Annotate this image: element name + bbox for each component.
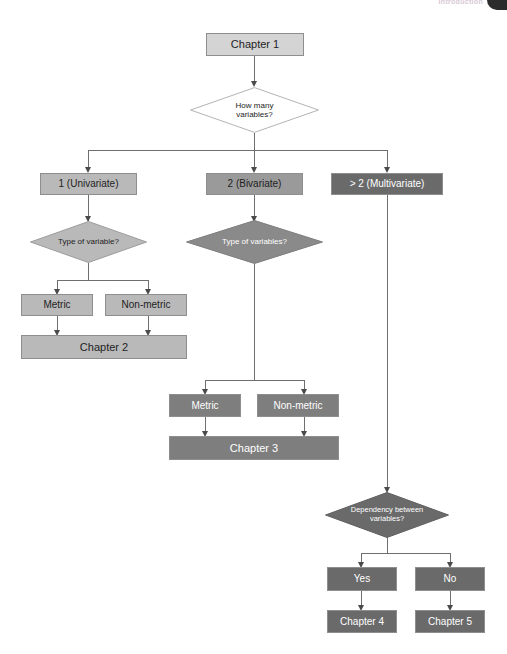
decision-type-of-variables[interactable]: Type of variables? bbox=[186, 220, 323, 264]
node-chapter-1[interactable]: Chapter 1 bbox=[206, 33, 304, 56]
edge-bivariate-split-bus bbox=[205, 380, 304, 381]
node-bivariate-metric-label: Metric bbox=[191, 400, 218, 412]
node-yes[interactable]: Yes bbox=[327, 567, 397, 591]
flowchart-page: Introduction Chapter 1 How many variable… bbox=[0, 0, 507, 654]
node-chapter-4[interactable]: Chapter 4 bbox=[327, 610, 397, 633]
node-bivariate[interactable]: 2 (Bivariate) bbox=[206, 173, 303, 195]
node-chapter-2[interactable]: Chapter 2 bbox=[21, 335, 187, 359]
node-multivariate[interactable]: > 2 (Multivariate) bbox=[331, 173, 443, 195]
decision-how-many-variables-text: How many variables? bbox=[230, 101, 280, 120]
node-no-label: No bbox=[444, 573, 457, 585]
edge-split-bus bbox=[88, 150, 387, 151]
node-chapter-3-label: Chapter 3 bbox=[230, 442, 278, 455]
node-chapter-2-label: Chapter 2 bbox=[80, 341, 128, 354]
decision-type-of-variables-text: Type of variables? bbox=[216, 237, 293, 246]
edge-multivariate-to-dependency bbox=[387, 195, 388, 491]
dependency-line-1: Dependency between bbox=[351, 505, 424, 514]
edge-dependency-stem bbox=[387, 538, 388, 553]
node-bivariate-nonmetric[interactable]: Non-metric bbox=[257, 394, 339, 417]
node-chapter-4-label: Chapter 4 bbox=[340, 616, 384, 628]
section-label: Introduction bbox=[439, 0, 483, 5]
edge-typevariables-stem bbox=[254, 264, 255, 380]
node-bivariate-label: 2 (Bivariate) bbox=[228, 178, 282, 190]
decision-how-many-variables[interactable]: How many variables? bbox=[190, 87, 319, 133]
decision-type-of-variable[interactable]: Type of variable? bbox=[30, 221, 147, 263]
decision-dependency-between-variables[interactable]: Dependency between variables? bbox=[325, 492, 449, 538]
edge-chapter1-howmany bbox=[254, 56, 255, 84]
decision-dependency-text: Dependency between variables? bbox=[345, 506, 430, 524]
edge-typevariable-stem bbox=[88, 263, 89, 280]
node-univariate-nonmetric[interactable]: Non-metric bbox=[105, 294, 187, 316]
node-univariate-label: 1 (Univariate) bbox=[58, 178, 118, 190]
edge-howmany-stem bbox=[254, 133, 255, 150]
node-bivariate-metric[interactable]: Metric bbox=[169, 394, 241, 417]
node-no[interactable]: No bbox=[415, 567, 485, 591]
decision-type-of-variable-text: Type of variable? bbox=[52, 237, 125, 246]
node-chapter-1-label: Chapter 1 bbox=[231, 38, 279, 51]
node-univariate-metric-label: Metric bbox=[43, 299, 70, 311]
node-chapter-5[interactable]: Chapter 5 bbox=[415, 610, 485, 633]
node-yes-label: Yes bbox=[354, 573, 370, 585]
page-corner-tab bbox=[487, 0, 507, 10]
node-multivariate-label: > 2 (Multivariate) bbox=[350, 178, 425, 190]
node-chapter-3[interactable]: Chapter 3 bbox=[169, 436, 339, 460]
dependency-line-2: variables? bbox=[370, 514, 404, 523]
node-univariate[interactable]: 1 (Univariate) bbox=[40, 173, 137, 195]
node-chapter-5-label: Chapter 5 bbox=[428, 616, 472, 628]
edge-univariate-split-bus bbox=[57, 280, 148, 281]
node-univariate-nonmetric-label: Non-metric bbox=[122, 299, 171, 311]
node-univariate-metric[interactable]: Metric bbox=[21, 294, 93, 316]
page-header: Introduction bbox=[395, 0, 507, 18]
howmany-line-2: variables? bbox=[236, 110, 272, 119]
edge-dependency-split-bus bbox=[361, 553, 450, 554]
node-bivariate-nonmetric-label: Non-metric bbox=[274, 400, 323, 412]
howmany-line-1: How many bbox=[236, 101, 274, 110]
